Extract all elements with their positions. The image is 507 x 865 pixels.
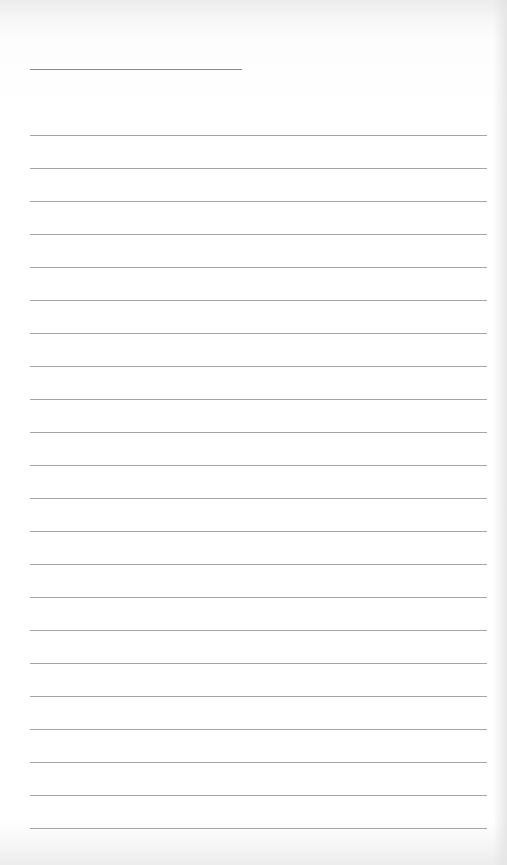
ruled-line bbox=[30, 234, 487, 235]
ruled-line bbox=[30, 828, 487, 829]
ruled-line bbox=[30, 663, 487, 664]
ruled-line bbox=[30, 201, 487, 202]
ruled-line bbox=[30, 762, 487, 763]
ruled-line bbox=[30, 531, 487, 532]
ruled-line bbox=[30, 795, 487, 796]
ruled-line bbox=[30, 597, 487, 598]
ruled-line bbox=[30, 135, 487, 136]
ruled-line bbox=[30, 168, 487, 169]
ruled-line bbox=[30, 729, 487, 730]
lined-paper-sheet bbox=[0, 0, 507, 865]
ruled-line bbox=[30, 300, 487, 301]
ruled-line bbox=[30, 630, 487, 631]
ruled-line bbox=[30, 564, 487, 565]
ruled-line bbox=[30, 465, 487, 466]
ruled-line bbox=[30, 366, 487, 367]
ruled-line bbox=[30, 267, 487, 268]
title-rule-line bbox=[30, 69, 242, 70]
ruled-line bbox=[30, 333, 487, 334]
ruled-line bbox=[30, 498, 487, 499]
ruled-line bbox=[30, 432, 487, 433]
ruled-line bbox=[30, 696, 487, 697]
ruled-line bbox=[30, 399, 487, 400]
